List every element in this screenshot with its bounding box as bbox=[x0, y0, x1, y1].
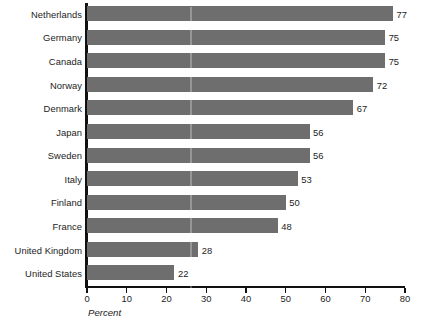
x-axis-tick-label: 20 bbox=[161, 294, 171, 303]
bar-row: United States22 bbox=[87, 262, 405, 286]
bar bbox=[87, 53, 385, 68]
x-axis-title: Percent bbox=[88, 308, 121, 318]
bar-chart: Netherlands77Germany75Canada75Norway72De… bbox=[0, 0, 427, 330]
bar bbox=[87, 242, 198, 257]
bar bbox=[87, 6, 393, 21]
x-axis-tick-label: 80 bbox=[400, 294, 410, 303]
bar-value-label: 48 bbox=[281, 222, 291, 231]
category-label: United States bbox=[25, 269, 82, 278]
bar-row: Netherlands77 bbox=[87, 3, 405, 27]
bar-row: Sweden56 bbox=[87, 145, 405, 169]
plot-area: Netherlands77Germany75Canada75Norway72De… bbox=[87, 3, 405, 286]
bar-row: Norway72 bbox=[87, 74, 405, 98]
x-axis-tick-label: 30 bbox=[201, 294, 211, 303]
category-label: Sweden bbox=[48, 152, 82, 161]
bar-value-label: 75 bbox=[389, 34, 399, 43]
bar bbox=[87, 148, 310, 163]
bar bbox=[87, 77, 373, 92]
category-label: France bbox=[53, 222, 82, 231]
bar-value-label: 72 bbox=[377, 81, 387, 90]
bar bbox=[87, 124, 310, 139]
category-label: Germany bbox=[43, 34, 82, 43]
x-axis-tick bbox=[206, 288, 207, 293]
bar-value-label: 56 bbox=[313, 152, 323, 161]
x-axis-tick bbox=[245, 288, 246, 293]
bar-row: Italy53 bbox=[87, 168, 405, 192]
category-label: Finland bbox=[51, 199, 82, 208]
bar-value-label: 53 bbox=[301, 175, 311, 184]
category-label: Italy bbox=[65, 175, 82, 184]
bar-value-label: 77 bbox=[397, 10, 407, 19]
x-axis-tick-label: 10 bbox=[122, 294, 132, 303]
bar-value-label: 75 bbox=[389, 57, 399, 66]
x-axis-tick-label: 40 bbox=[241, 294, 251, 303]
x-axis-tick bbox=[325, 288, 326, 293]
x-axis-tick-label: 0 bbox=[84, 294, 89, 303]
category-label: United Kingdom bbox=[15, 246, 82, 255]
bar-value-label: 50 bbox=[289, 199, 299, 208]
category-label: Norway bbox=[50, 81, 82, 90]
x-axis-tick bbox=[285, 288, 286, 293]
bar bbox=[87, 30, 385, 45]
category-label: Japan bbox=[56, 128, 82, 137]
bar bbox=[87, 195, 286, 210]
x-axis-tick bbox=[86, 288, 87, 293]
x-axis-tick-label: 60 bbox=[320, 294, 330, 303]
category-label: Canada bbox=[49, 57, 82, 66]
bar-row: Germany75 bbox=[87, 27, 405, 51]
x-axis-tick-label: 50 bbox=[281, 294, 291, 303]
bar-value-label: 28 bbox=[202, 246, 212, 255]
bar bbox=[87, 265, 174, 280]
bar-row: Canada75 bbox=[87, 50, 405, 74]
bar-row: Finland50 bbox=[87, 192, 405, 216]
bar-row: France48 bbox=[87, 215, 405, 239]
category-label: Netherlands bbox=[31, 10, 82, 19]
x-axis-tick bbox=[365, 288, 366, 293]
bar bbox=[87, 171, 298, 186]
bar bbox=[87, 218, 278, 233]
bar-value-label: 22 bbox=[178, 269, 188, 278]
category-label: Denmark bbox=[44, 104, 82, 113]
bar bbox=[87, 100, 353, 115]
bar-row: Japan56 bbox=[87, 121, 405, 145]
bar-row: Denmark67 bbox=[87, 97, 405, 121]
bar-value-label: 56 bbox=[313, 128, 323, 137]
x-axis-tick bbox=[166, 288, 167, 293]
bar-row: United Kingdom28 bbox=[87, 239, 405, 263]
bar-value-label: 67 bbox=[357, 104, 367, 113]
x-axis-tick bbox=[126, 288, 127, 293]
x-axis-tick bbox=[404, 288, 405, 293]
x-axis-tick-label: 70 bbox=[360, 294, 370, 303]
